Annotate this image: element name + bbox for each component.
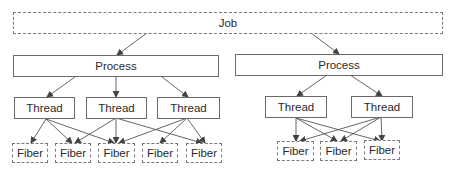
fiber-label: Fiber (103, 147, 129, 159)
arrow-thread-to-fiber (46, 119, 114, 143)
thread-node: Thread (265, 96, 327, 118)
fiber-node: Fiber (12, 143, 48, 163)
thread-node: Thread (14, 97, 75, 119)
arrow-thread-to-fiber (75, 118, 116, 143)
arrow-process-to-thread (47, 77, 75, 97)
job-hierarchy-diagram: Job Process Thread Thread Thread Fiber F… (0, 0, 457, 170)
fiber-label: Fiber (60, 147, 86, 159)
thread-label: Thread (170, 102, 206, 114)
fiber-node: Fiber (320, 141, 357, 161)
fiber-node: Fiber (98, 143, 135, 163)
process-label: Process (95, 60, 137, 72)
thread-node: Thread (351, 96, 413, 118)
arrow-process-to-thread (297, 75, 327, 96)
fiber-label: Fiber (282, 145, 308, 157)
fiber-label: Fiber (17, 147, 43, 159)
fiber-label: Fiber (191, 147, 217, 159)
arrow-thread-to-fiber (46, 119, 72, 143)
arrow-job-to-process-right (311, 33, 339, 54)
arrow-thread-to-fiber (31, 119, 46, 143)
fiber-node: Fiber (364, 140, 400, 160)
arrow-thread-to-fiber (341, 117, 381, 141)
job-label: Job (219, 17, 238, 29)
fiber-label: Fiber (369, 144, 395, 156)
process-node-right: Process (235, 54, 443, 76)
fiber-label: Fiber (147, 147, 173, 159)
thread-node: Thread (157, 97, 220, 119)
thread-label: Thread (364, 101, 400, 113)
thread-node: Thread (86, 97, 147, 119)
arrow-thread-to-fiber (296, 118, 337, 141)
fiber-node: Fiber (142, 143, 178, 163)
fiber-label: Fiber (325, 145, 351, 157)
job-node: Job (13, 12, 443, 34)
arrow-thread-to-fiber (300, 117, 381, 141)
fiber-node: Fiber (55, 143, 91, 163)
thread-label: Thread (26, 102, 62, 114)
arrow-thread-to-fiber (381, 117, 382, 141)
fiber-node: Fiber (186, 143, 222, 163)
process-node-left: Process (13, 55, 219, 77)
arrow-process-to-thread (350, 75, 382, 96)
arrow-job-to-process-left (117, 33, 147, 55)
thread-label: Thread (98, 102, 134, 114)
arrow-process-to-thread (162, 77, 188, 97)
fiber-node: Fiber (277, 141, 314, 161)
arrow-thread-to-fiber (160, 118, 187, 143)
thread-label: Thread (278, 101, 314, 113)
process-label: Process (318, 59, 360, 71)
